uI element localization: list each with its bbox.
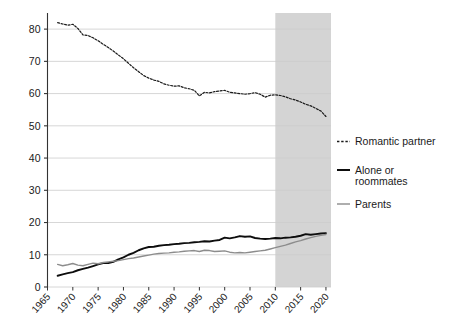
y-tick-labels-group: 01020304050607080: [29, 23, 41, 293]
y-axis-line: [44, 13, 48, 287]
x-tick-label: 2000: [207, 291, 230, 315]
y-tick-label: 80: [29, 23, 41, 35]
y-tick-label: 70: [29, 55, 41, 67]
chart-canvas: 01020304050607080 1965197019751980198519…: [0, 0, 459, 335]
x-tick-label: 1995: [181, 291, 204, 315]
y-tick-label: 50: [29, 120, 41, 132]
x-tick-label: 2010: [257, 291, 280, 315]
legend-group: Romantic partnerAlone orroommatesParents: [337, 135, 436, 210]
y-tick-label: 40: [29, 152, 41, 164]
x-tick-label: 2015: [283, 291, 306, 315]
legend-label: roommates: [355, 175, 408, 187]
x-tick-label: 1990: [156, 291, 179, 315]
x-tick-labels-group: 1965197019751980198519901995200020052010…: [29, 287, 331, 315]
x-tick-label: 1980: [105, 291, 128, 315]
legend-label: Parents: [355, 198, 391, 210]
y-tick-label: 10: [29, 249, 41, 261]
legend-label: Alone or: [355, 164, 395, 176]
y-tick-label: 60: [29, 87, 41, 99]
x-tick-label: 1985: [131, 291, 154, 315]
legend-label: Romantic partner: [355, 135, 436, 147]
y-tick-label: 20: [29, 216, 41, 228]
x-tick-label: 2020: [308, 291, 331, 315]
x-tick-label: 2005: [232, 291, 255, 315]
x-tick-label: 1965: [29, 291, 52, 315]
y-tick-label: 0: [35, 281, 41, 293]
line-chart: 01020304050607080 1965197019751980198519…: [0, 0, 459, 335]
x-tick-label: 1975: [80, 291, 103, 315]
x-tick-label: 1970: [55, 291, 78, 315]
y-tick-label: 30: [29, 184, 41, 196]
